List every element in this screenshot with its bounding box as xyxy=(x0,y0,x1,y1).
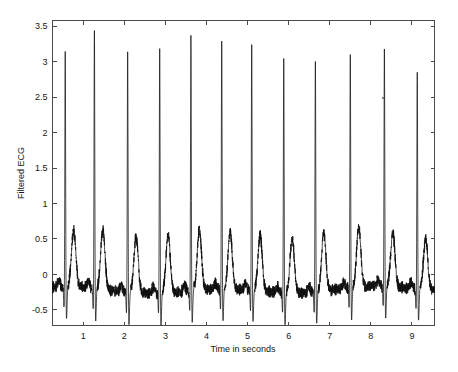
x-axis-tick-label: 8 xyxy=(368,331,373,341)
ecg-waveform-trace xyxy=(53,31,435,326)
x-axis-tick-label: 3 xyxy=(163,331,168,341)
x-axis-tick-label: 5 xyxy=(245,331,250,341)
tick-labels-group: -0.500.511.522.533.5123456789 xyxy=(32,21,414,340)
y-axis-tick-label: 3 xyxy=(42,57,47,67)
y-axis-tick-label: 1 xyxy=(42,199,47,209)
y-axis-tick-label: 2.5 xyxy=(35,92,48,102)
x-axis-tick-label: 1 xyxy=(81,331,86,341)
x-axis-tick-label: 2 xyxy=(122,331,127,341)
x-axis-tick-label: 9 xyxy=(409,331,414,341)
x-axis-title: Time in seconds xyxy=(210,344,276,354)
y-axis-title: Filtered ECG xyxy=(16,147,26,199)
y-axis-tick-label: 1.5 xyxy=(35,163,48,173)
x-axis-tick-label: 4 xyxy=(204,331,209,341)
ecg-figure: -0.500.511.522.533.5123456789 Time in se… xyxy=(0,0,458,372)
y-axis-tick-label: -0.5 xyxy=(32,305,48,315)
y-axis-tick-label: 3.5 xyxy=(35,21,48,31)
x-axis-tick-label: 6 xyxy=(286,331,291,341)
ecg-chart-svg: -0.500.511.522.533.5123456789 Time in se… xyxy=(0,0,458,372)
y-axis-tick-label: 0.5 xyxy=(35,234,48,244)
scan-speck-artifact xyxy=(382,97,384,99)
x-axis-tick-label: 7 xyxy=(327,331,332,341)
y-axis-tick-label: 0 xyxy=(42,270,47,280)
y-axis-tick-label: 2 xyxy=(42,128,47,138)
